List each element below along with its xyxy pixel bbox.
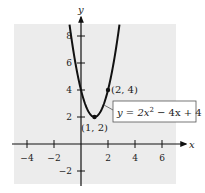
y-tick-label: −2 — [59, 166, 72, 176]
data-point — [92, 115, 96, 119]
point-label: (2, 4) — [111, 84, 138, 95]
x-tick-label: 6 — [159, 153, 165, 163]
equation-label: y = 2x2 − 4x + 4 — [104, 101, 202, 122]
x-tick-label: −4 — [20, 153, 34, 163]
data-point — [106, 88, 110, 92]
y-axis-label: y — [77, 4, 84, 15]
x-tick-label: 4 — [132, 153, 138, 163]
y-tick-label: 6 — [66, 58, 72, 68]
point-label: (1, 2) — [81, 122, 108, 133]
y-tick-label: 4 — [66, 85, 72, 95]
x-axis-label: x — [189, 139, 195, 150]
x-tick-label: 2 — [105, 153, 111, 163]
x-tick-label: −2 — [47, 153, 60, 163]
parabola-chart: −4−2246−22468 (1, 2)(2, 4) x y y = 2x2 −… — [0, 0, 205, 193]
equation-text: y = 2x2 − 4x + 4 — [116, 106, 202, 118]
y-tick-label: 2 — [66, 112, 72, 122]
